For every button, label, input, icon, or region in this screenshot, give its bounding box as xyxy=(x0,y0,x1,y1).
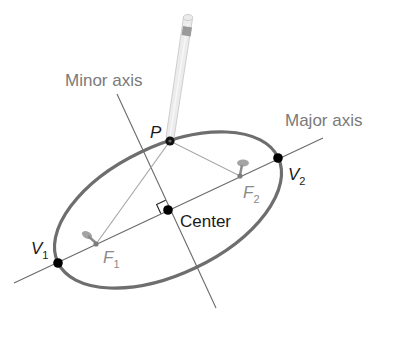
vertex-v2-label-sub: 2 xyxy=(299,175,305,187)
center-label: Center xyxy=(180,212,231,231)
focus-f1-label-sub: 1 xyxy=(113,258,119,270)
point-p-marker xyxy=(165,136,174,145)
major-axis-label: Major axis xyxy=(285,111,362,130)
focus-f2-label: F2 xyxy=(243,183,260,205)
minor-axis-line xyxy=(117,94,216,308)
focus-f1-label: F1 xyxy=(103,248,120,270)
vertex-v1-label-sub: 1 xyxy=(42,249,48,261)
vertex-v2-label: V2 xyxy=(288,165,305,187)
pencil-icon xyxy=(166,15,193,139)
vertex-v2-marker xyxy=(273,153,283,163)
focus-f2-label-sub: 2 xyxy=(253,193,259,205)
vertex-v1-marker xyxy=(53,258,63,268)
point-p-label: P xyxy=(150,123,162,142)
string-p-to-f2 xyxy=(170,141,240,176)
vertex-v1-label: V1 xyxy=(31,239,48,261)
ellipse-diagram: Minor axis Major axis P Center V1 V2 F1 … xyxy=(0,0,393,343)
center-marker xyxy=(163,205,173,215)
minor-axis-label: Minor axis xyxy=(65,71,142,90)
pin-icon-f1 xyxy=(80,229,98,246)
